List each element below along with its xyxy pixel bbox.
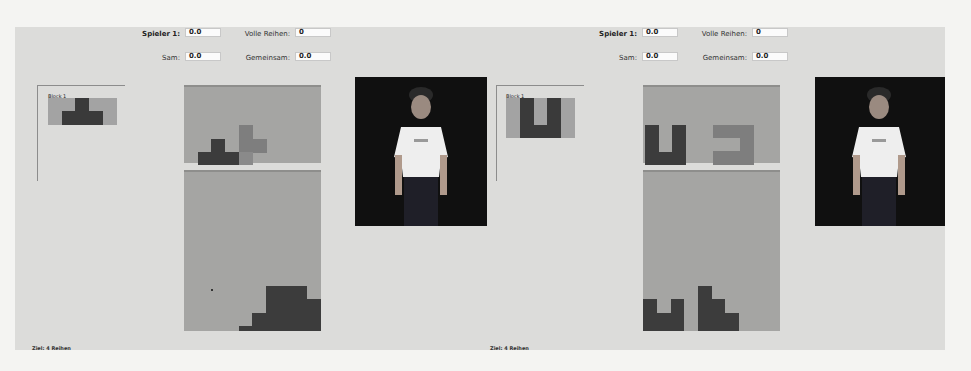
sam-label: Sam: — [597, 54, 637, 62]
ghost-block-cell — [239, 125, 253, 139]
ghost-block-cell — [713, 151, 754, 165]
gemeinsam-score-field: 0.0 — [295, 52, 331, 61]
placed-block-cell — [672, 125, 686, 165]
stacked-cell — [239, 326, 252, 331]
stacked-cell — [698, 286, 712, 331]
volle-reihen-label: Volle Reihen: — [230, 30, 290, 38]
tetris-coop-screen: Spieler 1: 0.0 Volle Reihen: 0 Sam: 0.0 … — [0, 0, 971, 371]
gemeinsam-label: Gemeinsam: — [230, 54, 290, 62]
sam-score-field: 0.0 — [642, 52, 678, 61]
ghost-block-cell — [239, 139, 267, 153]
block-cell — [75, 98, 89, 112]
player-panel-right: Spieler 1: 0.0 Volle Reihen: 0 Sam: 0.0 … — [457, 0, 927, 371]
stacked-cell — [712, 299, 725, 331]
board-marker — [211, 289, 213, 291]
stacked-cell — [307, 299, 321, 331]
ghost-block-cell — [239, 152, 253, 165]
spieler-score-field: 0.0 — [642, 28, 678, 37]
game-board — [184, 170, 321, 331]
ghost-block-cell — [713, 125, 754, 138]
next-block-preview — [48, 98, 117, 125]
placed-block-cell — [659, 152, 672, 165]
drop-zone — [643, 85, 780, 163]
avatar-image — [815, 77, 945, 226]
game-board — [643, 170, 780, 331]
block-cell — [62, 111, 103, 125]
gemeinsam-label: Gemeinsam: — [687, 54, 747, 62]
placed-block-cell — [211, 139, 225, 153]
stacked-cell — [643, 299, 657, 331]
stacked-cell — [657, 313, 671, 331]
stacked-cell — [266, 286, 307, 331]
gemeinsam-score-field: 0.0 — [752, 52, 788, 61]
sam-score-field: 0.0 — [185, 52, 221, 61]
avatar-figure-icon — [815, 77, 945, 226]
stacked-cell — [671, 299, 684, 331]
spieler-label: Spieler 1: — [585, 30, 637, 38]
player-panel-left: Spieler 1: 0.0 Volle Reihen: 0 Sam: 0.0 … — [0, 0, 470, 371]
ghost-block-cell — [740, 138, 754, 151]
volle-reihen-field: 0 — [295, 28, 331, 37]
block-cell — [547, 98, 561, 138]
placed-block-cell — [198, 152, 239, 165]
spieler-label: Spieler 1: — [128, 30, 180, 38]
spieler-score-field: 0.0 — [185, 28, 221, 37]
goal-label: Ziel: 4 Reihen — [490, 345, 529, 351]
placed-block-cell — [645, 125, 659, 165]
stacked-cell — [725, 313, 739, 331]
drop-zone — [184, 85, 321, 163]
block-cell — [534, 125, 547, 138]
next-block-preview — [506, 98, 575, 138]
volle-reihen-label: Volle Reihen: — [687, 30, 747, 38]
block-cell — [520, 98, 534, 138]
volle-reihen-field: 0 — [752, 28, 788, 37]
sam-label: Sam: — [140, 54, 180, 62]
stacked-cell — [252, 313, 266, 331]
goal-label: Ziel: 4 Reihen — [32, 345, 71, 351]
